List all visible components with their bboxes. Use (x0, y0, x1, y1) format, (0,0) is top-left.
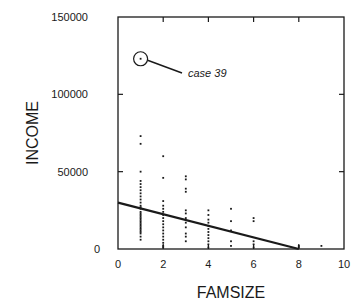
data-point (208, 237, 210, 239)
data-point (185, 179, 187, 181)
data-point (140, 220, 142, 222)
data-point (140, 211, 142, 213)
data-point (185, 217, 187, 219)
x-tick-label: 6 (251, 258, 257, 270)
y-axis-ticks: 050000100000150000 (51, 11, 344, 255)
data-point (185, 191, 187, 193)
x-tick-label: 8 (296, 258, 302, 270)
data-point (162, 226, 164, 228)
data-point (140, 222, 142, 224)
data-point (185, 175, 187, 177)
data-point (162, 217, 164, 219)
data-point (162, 223, 164, 225)
y-tick-label: 150000 (51, 11, 88, 23)
data-point (140, 199, 142, 201)
data-point (208, 247, 210, 249)
data-point (185, 188, 187, 190)
annotation-leader-line (148, 60, 182, 73)
data-point (140, 216, 142, 218)
data-point (208, 219, 210, 221)
data-point (140, 217, 142, 219)
data-point (298, 245, 300, 247)
data-point (208, 214, 210, 216)
data-point (140, 189, 142, 191)
data-point (140, 186, 142, 188)
data-point (253, 247, 255, 249)
data-point (140, 214, 142, 216)
data-point (140, 143, 142, 145)
data-point (140, 236, 142, 238)
data-point (162, 245, 164, 247)
data-point (140, 192, 142, 194)
x-tick-label: 10 (338, 258, 350, 270)
data-point (208, 231, 210, 233)
data-point (208, 240, 210, 242)
data-point (140, 196, 142, 198)
data-point (208, 234, 210, 236)
data-point (230, 245, 232, 247)
data-point (162, 208, 164, 210)
data-point (140, 239, 142, 241)
data-point (321, 245, 323, 247)
data-point (162, 242, 164, 244)
data-point (185, 236, 187, 238)
data-point (140, 219, 142, 221)
data-point (185, 240, 187, 242)
data-point (140, 226, 142, 228)
y-tick-label: 100000 (51, 88, 88, 100)
y-axis-title: INCOME (24, 101, 41, 165)
x-tick-label: 4 (205, 258, 211, 270)
data-point (140, 231, 142, 233)
data-point (162, 230, 164, 232)
data-point (185, 213, 187, 215)
data-point (208, 209, 210, 211)
data-point (162, 211, 164, 213)
data-point (162, 200, 164, 202)
plot-frame (118, 17, 344, 249)
x-tick-label: 0 (115, 258, 121, 270)
case-39-annotation: case 39 (134, 52, 227, 79)
data-point (230, 208, 232, 210)
data-point (140, 135, 142, 137)
data-point (140, 225, 142, 227)
data-point (140, 202, 142, 204)
data-point (162, 220, 164, 222)
data-point (140, 183, 142, 185)
data-point (162, 233, 164, 235)
scatter-plot: 0246810 050000100000150000 case 39 FAMSI… (0, 0, 362, 308)
data-point (162, 177, 164, 179)
data-point (253, 243, 255, 245)
x-axis-title: FAMSIZE (197, 284, 265, 301)
data-point (140, 180, 142, 182)
data-point (140, 213, 142, 215)
data-point (208, 228, 210, 230)
data-point (253, 220, 255, 222)
data-point (162, 236, 164, 238)
data-point (230, 240, 232, 242)
data-point (208, 243, 210, 245)
y-tick-label: 50000 (57, 166, 88, 178)
data-point (162, 155, 164, 157)
x-tick-label: 2 (160, 258, 166, 270)
data-point (253, 217, 255, 219)
data-point (185, 222, 187, 224)
annotation-label: case 39 (188, 67, 227, 79)
data-point (185, 233, 187, 235)
data-point (185, 209, 187, 211)
data-points (140, 58, 323, 248)
data-point (185, 226, 187, 228)
data-point (253, 240, 255, 242)
data-point (208, 222, 210, 224)
y-tick-label: 0 (94, 243, 100, 255)
data-point (140, 205, 142, 207)
data-point (140, 233, 142, 235)
data-point (162, 239, 164, 241)
data-point (140, 228, 142, 230)
data-point (162, 247, 164, 249)
data-point (140, 223, 142, 225)
data-point (140, 171, 142, 173)
data-point (140, 230, 142, 232)
data-point (140, 58, 142, 60)
data-point (230, 220, 232, 222)
data-point (162, 205, 164, 207)
